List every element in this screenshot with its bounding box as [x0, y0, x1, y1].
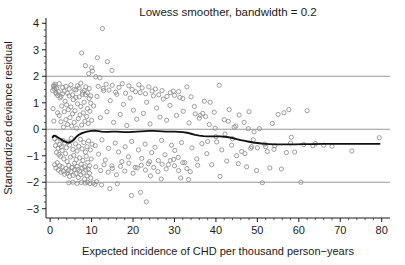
y-tick-label: −1 [26, 150, 39, 162]
x-tick-label: 0 [47, 224, 53, 236]
y-tick-label: −2 [26, 176, 39, 188]
x-tick-label: 60 [293, 224, 305, 236]
y-tick-label: 2 [33, 70, 39, 82]
y-tick-label: −3 [26, 203, 39, 215]
x-tick-label: 10 [85, 224, 97, 236]
x-tick-label: 70 [334, 224, 346, 236]
y-tick-label: 4 [33, 17, 39, 29]
y-axis-label: Standardized deviance residual [2, 41, 14, 195]
y-tick-label: 1 [33, 97, 39, 109]
x-tick-label: 80 [376, 224, 388, 236]
x-tick-label: 30 [168, 224, 180, 236]
figure-container: 01020304050607080−3−2−101234 Lowess smoo… [0, 0, 405, 265]
x-axis-label: Expected incidence of CHD per thousand p… [82, 245, 354, 257]
x-tick-label: 40 [210, 224, 222, 236]
x-tick-label: 20 [127, 224, 139, 236]
scatter-plot-chart: 01020304050607080−3−2−101234 Lowess smoo… [0, 0, 405, 265]
x-tick-label: 50 [251, 224, 263, 236]
y-tick-label: 3 [33, 44, 39, 56]
y-tick-label: 0 [33, 123, 39, 135]
chart-title: Lowess smoother, bandwidth = 0.2 [139, 6, 316, 18]
